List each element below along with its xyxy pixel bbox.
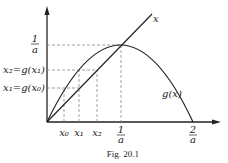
y-label-x1: x₁=g(x₀) — [3, 82, 45, 93]
x-label-x2: x₂ — [92, 127, 102, 138]
y-label-1a-num: 1 — [32, 33, 38, 44]
identity-line — [47, 14, 152, 122]
x-label-2a-den: a — [190, 134, 196, 145]
y-axis-arrow-icon — [45, 6, 50, 15]
g-curve — [47, 45, 193, 122]
x-label-1a-den: a — [118, 134, 124, 145]
x-label-x1: x₁ — [74, 127, 84, 138]
y-label-x2: x₂=g(x₁) — [3, 64, 45, 75]
curve-label: g(x) — [162, 88, 182, 99]
line-label: x — [153, 13, 159, 24]
x-axis-arrow-icon — [212, 120, 221, 125]
axes — [47, 12, 214, 122]
x-label-x0: x₀ — [59, 127, 69, 138]
figure-20-1: x g(x) 1 a x₂=g(x₁) x₁=g(x₀) x₀ x₁ x₂ 1 … — [0, 0, 228, 163]
figure-caption: Fig. 20.1 — [107, 149, 139, 159]
y-label-1a-den: a — [32, 44, 38, 55]
